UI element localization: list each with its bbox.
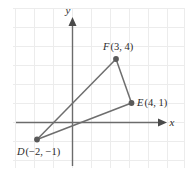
point-label-d: D(−2, −1) [16, 146, 61, 158]
point-d-coords: (−2, −1) [26, 146, 61, 158]
y-axis-arrowhead [69, 17, 77, 26]
grid-lines [13, 8, 185, 168]
point-marker-e [129, 100, 135, 106]
point-f-name: F [102, 41, 110, 52]
point-label-e: E(4, 1) [136, 97, 168, 109]
point-f-coords: (3, 4) [110, 41, 133, 53]
plot-svg: y x F(3, 4) E(4, 1) D(−2, −1) [0, 0, 185, 176]
x-axis-arrowhead [158, 119, 167, 127]
coordinate-plane-figure: y x F(3, 4) E(4, 1) D(−2, −1) [0, 0, 185, 176]
y-axis-label: y [65, 4, 71, 16]
segment-f-d [37, 59, 116, 140]
x-axis-label: x [169, 116, 175, 128]
point-marker-f [113, 56, 119, 62]
point-label-f: F(3, 4) [102, 41, 134, 53]
point-e-name: E [136, 97, 144, 108]
point-e-coords: (4, 1) [144, 97, 167, 109]
segment-d-e [37, 103, 132, 140]
point-d-name: D [16, 146, 25, 157]
point-marker-d [34, 137, 40, 143]
triangle-edges [37, 59, 132, 140]
